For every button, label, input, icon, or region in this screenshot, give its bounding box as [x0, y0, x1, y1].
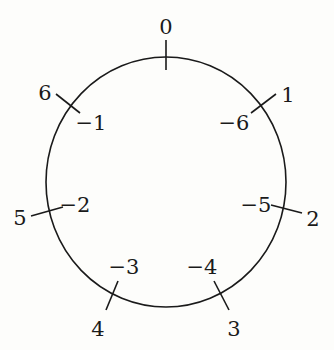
inner-label: −6	[219, 111, 250, 135]
inner-label: −4	[187, 255, 218, 279]
outer-label: 1	[281, 83, 294, 107]
outer-label: 2	[306, 207, 319, 231]
inner-label: −1	[76, 111, 107, 135]
tick-mark	[271, 205, 302, 213]
tick-mark	[31, 207, 63, 216]
outer-label: 0	[159, 15, 172, 39]
outer-label: 5	[13, 206, 26, 230]
circular-number-line: 01−62−53−44−35−26−1	[0, 0, 334, 350]
inner-label: −3	[109, 255, 140, 279]
outer-label: 4	[91, 317, 104, 341]
inner-label: −5	[241, 193, 272, 217]
outer-label: 3	[227, 317, 240, 341]
inner-label: −2	[60, 193, 91, 217]
outer-label: 6	[38, 81, 51, 105]
tick-group: 01−62−53−44−35−26−1	[13, 15, 319, 341]
circle	[46, 57, 286, 307]
